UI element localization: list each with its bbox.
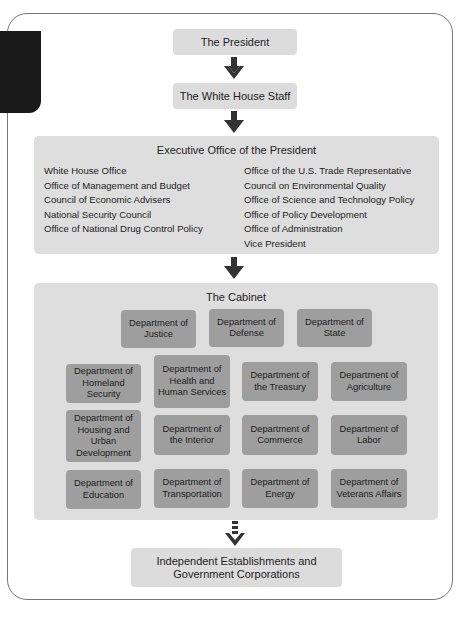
department-label: Department of Defense (211, 317, 282, 340)
list-item: Office of Administration (244, 222, 414, 237)
department-label: Department of Housing and Urban Developm… (68, 413, 139, 459)
department-label: Department of State (299, 317, 370, 340)
department-label: Department of Transportation (156, 477, 228, 500)
list-item: Office of Management and Budget (44, 179, 203, 194)
cabinet-title: The Cabinet (34, 291, 438, 303)
dashed-down-arrow-icon (224, 521, 246, 547)
department-label: Department of Veterans Affairs (333, 477, 405, 500)
executive-office-panel: Executive Office of the President White … (34, 136, 439, 254)
department-box: Department of the Treasury (242, 362, 318, 401)
independent-establishments-box: Independent Establishments and Governmen… (131, 548, 342, 587)
list-item: Office of Science and Technology Policy (244, 193, 414, 208)
side-tab-marker (0, 31, 41, 113)
list-item: Office of Policy Development (244, 208, 414, 223)
department-box: Department of Transportation (154, 469, 230, 508)
department-box: Department of Defense (209, 309, 284, 347)
list-item: White House Office (44, 164, 203, 179)
department-label: Department of Energy (244, 477, 316, 500)
list-item: Office of National Drug Control Policy (44, 222, 203, 237)
independent-establishments-label: Independent Establishments and Governmen… (151, 555, 322, 581)
president-box: The President (173, 29, 297, 55)
department-box: Department of State (297, 309, 372, 347)
department-label: Department of Agriculture (333, 370, 405, 393)
department-box: Department of Veterans Affairs (331, 469, 407, 508)
white-house-staff-box: The White House Staff (173, 83, 297, 109)
executive-office-left-list: White House Office Office of Management … (44, 164, 203, 237)
department-box: Department of Health and Human Services (154, 355, 230, 408)
list-item: Council of Economic Advisers (44, 193, 203, 208)
list-item: Vice President (244, 237, 414, 252)
department-label: Department of Justice (123, 318, 194, 341)
executive-office-title: Executive Office of the President (34, 144, 439, 156)
list-item: Council on Environmental Quality (244, 179, 414, 194)
list-item: National Security Council (44, 208, 203, 223)
executive-office-right-list: Office of the U.S. Trade Representative … (244, 164, 414, 251)
department-box: Department of Justice (121, 310, 196, 348)
president-label: The President (201, 36, 269, 48)
department-label: Department of Labor (333, 424, 405, 447)
department-box: Department of Homeland Security (66, 364, 141, 403)
white-house-staff-label: The White House Staff (180, 90, 290, 102)
department-label: Department of Education (68, 478, 139, 501)
department-box: Department of Education (66, 470, 141, 509)
department-label: Department of Health and Human Services (156, 364, 228, 399)
down-arrow-icon (222, 57, 246, 81)
department-box: Department of the Interior (154, 415, 230, 455)
department-label: Department of Homeland Security (68, 366, 139, 401)
down-arrow-icon (222, 257, 246, 281)
department-box: Department of Commerce (242, 415, 318, 455)
department-box: Department of Energy (242, 469, 318, 508)
department-box: Department of Labor (331, 415, 407, 455)
department-label: Department of the Interior (156, 424, 228, 447)
list-item: Office of the U.S. Trade Representative (244, 164, 414, 179)
department-label: Department of Commerce (244, 424, 316, 447)
down-arrow-icon (222, 111, 246, 135)
department-box: Department of Housing and Urban Developm… (66, 410, 141, 462)
department-box: Department of Agriculture (331, 362, 407, 401)
department-label: Department of the Treasury (244, 370, 316, 393)
